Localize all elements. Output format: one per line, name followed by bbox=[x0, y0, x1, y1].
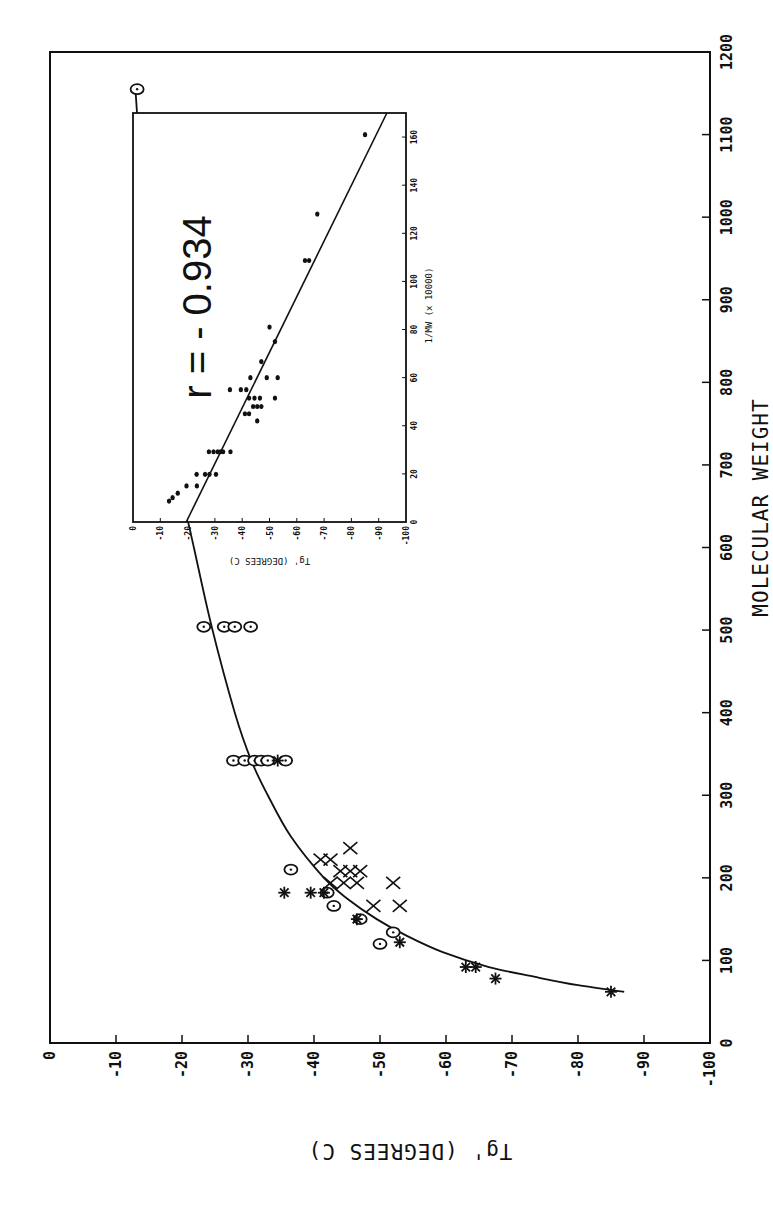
inset-data-point bbox=[315, 211, 319, 216]
inset-y-tick-label: -100 bbox=[402, 526, 411, 545]
x-tick-label: 600 bbox=[718, 534, 736, 561]
y-tick-label: -10 bbox=[107, 1051, 125, 1078]
inset-x-tick-label: 100 bbox=[410, 274, 419, 289]
y-tick-label: -40 bbox=[305, 1051, 323, 1078]
data-point-asterisk bbox=[351, 913, 363, 925]
x-tick-label: 1200 bbox=[718, 34, 736, 70]
y-tick-label: -20 bbox=[173, 1051, 191, 1078]
rotated-figure: 0100200300400500600700800900100011001200… bbox=[0, 0, 773, 1206]
y-tick-label: -60 bbox=[437, 1051, 455, 1078]
inset-data-point bbox=[259, 404, 263, 409]
inset-y-axis-title: Tg' (DEGREES C) bbox=[229, 556, 310, 566]
inset-data-point bbox=[248, 375, 252, 380]
y-tick-label: 0 bbox=[41, 1051, 59, 1060]
inset-x-axis-title: 1/MW (x 10000) bbox=[424, 268, 434, 344]
data-point-x bbox=[343, 842, 357, 854]
data-point-x bbox=[350, 877, 364, 889]
inset-x-tick-label: 40 bbox=[410, 421, 419, 431]
x-tick-label: 1100 bbox=[718, 117, 736, 153]
data-point-asterisk bbox=[272, 755, 284, 767]
inset-data-point bbox=[228, 449, 232, 454]
inset-data-point bbox=[273, 395, 277, 400]
data-point-circle-dot bbox=[197, 622, 210, 632]
y-tick-label: -30 bbox=[239, 1051, 257, 1078]
data-point-circle-dot bbox=[228, 622, 241, 632]
inset-data-point bbox=[184, 483, 188, 488]
inset-data-point bbox=[259, 359, 263, 364]
inset-data-point bbox=[267, 325, 271, 330]
inset-data-point bbox=[195, 483, 199, 488]
inset-data-point bbox=[170, 495, 174, 500]
inset-y-tick-label: -20 bbox=[184, 526, 193, 541]
inset-data-point bbox=[203, 472, 207, 477]
inset-y-tick-label: -80 bbox=[347, 526, 356, 541]
data-point-circle-dot bbox=[327, 901, 340, 911]
inset-x-tick-label: 140 bbox=[410, 178, 419, 193]
inset-data-point bbox=[255, 418, 259, 423]
inset-x-tick-label: 60 bbox=[410, 373, 419, 383]
data-point-circle-dot bbox=[387, 927, 400, 937]
inset-data-point bbox=[243, 411, 247, 416]
inset-data-point bbox=[265, 375, 269, 380]
x-tick-label: 100 bbox=[718, 947, 736, 974]
inset-data-point bbox=[228, 387, 232, 392]
x-tick-label: 1000 bbox=[718, 199, 736, 235]
data-point-circle-dot bbox=[374, 939, 387, 949]
inset-data-point bbox=[176, 491, 180, 496]
data-point-asterisk bbox=[305, 887, 317, 899]
inset-data-point bbox=[273, 339, 277, 344]
inset-y-tick-label: -90 bbox=[375, 526, 384, 541]
inset-data-point bbox=[211, 449, 215, 454]
correlation-annotation: r = - 0.934 bbox=[175, 215, 219, 398]
inset-plot: 0204060801001201401600-10-20-30-40-50-60… bbox=[129, 113, 419, 545]
inset-data-point bbox=[258, 395, 262, 400]
data-point-x bbox=[324, 854, 338, 866]
inset-x-tick-label: 0 bbox=[410, 519, 419, 524]
inset-x-tick-label: 80 bbox=[410, 325, 419, 335]
inset-y-tick-label: -30 bbox=[211, 526, 220, 541]
y-tick-label: -70 bbox=[503, 1051, 521, 1078]
inset-data-point bbox=[194, 472, 198, 477]
x-tick-label: 900 bbox=[718, 286, 736, 313]
inset-data-point bbox=[221, 449, 225, 454]
y-tick-label: -90 bbox=[635, 1051, 653, 1078]
data-point-x bbox=[324, 877, 338, 889]
inset-y-tick-label: -50 bbox=[266, 526, 275, 541]
data-point-x bbox=[393, 900, 407, 912]
data-point-x bbox=[386, 877, 400, 889]
data-point-x bbox=[366, 900, 380, 912]
y-tick-label: -100 bbox=[701, 1051, 719, 1087]
x-tick-label: 700 bbox=[718, 451, 736, 478]
inset-data-point bbox=[207, 449, 211, 454]
x-tick-label: 300 bbox=[718, 782, 736, 809]
inset-y-tick-label: -10 bbox=[156, 526, 165, 541]
y-tick-label: -80 bbox=[569, 1051, 587, 1078]
x-tick-label: 500 bbox=[718, 617, 736, 644]
inset-data-point bbox=[214, 472, 218, 477]
inset-data-point bbox=[244, 387, 248, 392]
inset-data-point bbox=[363, 132, 367, 137]
data-point-asterisk bbox=[605, 986, 617, 998]
inset-y-tick-label: -70 bbox=[320, 526, 329, 541]
x-axis-title: MOLECULAR WEIGHT bbox=[749, 398, 773, 616]
chart-canvas: 0100200300400500600700800900100011001200… bbox=[0, 0, 773, 1206]
y-axis-title: Tg' (DEGREES C) bbox=[308, 1139, 513, 1163]
data-point-circle-dot bbox=[131, 84, 144, 94]
data-point-circle-dot bbox=[244, 622, 257, 632]
inset-x-tick-label: 120 bbox=[410, 226, 419, 241]
x-tick-label: 800 bbox=[718, 369, 736, 396]
inset-data-point bbox=[167, 498, 171, 503]
data-point-asterisk bbox=[470, 961, 482, 973]
x-tick-label: 200 bbox=[718, 864, 736, 891]
data-point-x bbox=[337, 877, 351, 889]
data-point-asterisk bbox=[490, 973, 502, 985]
inset-data-point bbox=[207, 472, 211, 477]
data-point-asterisk bbox=[278, 887, 290, 899]
inset-data-point bbox=[247, 411, 251, 416]
inset-y-tick-label: -40 bbox=[238, 526, 247, 541]
data-point-x bbox=[353, 865, 367, 877]
inset-data-point bbox=[303, 258, 307, 263]
inset-data-point bbox=[275, 375, 279, 380]
inset-data-point bbox=[251, 404, 255, 409]
y-tick-label: -50 bbox=[371, 1051, 389, 1078]
